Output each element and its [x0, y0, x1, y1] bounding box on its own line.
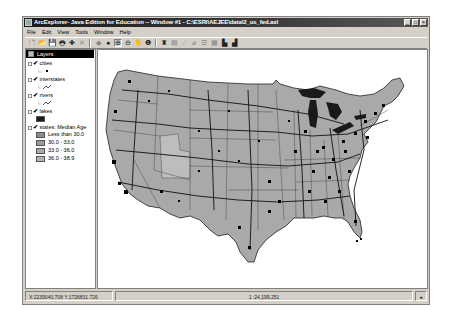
layers-icon [28, 51, 34, 57]
legend-swatch [36, 140, 45, 146]
menu-file[interactable]: File [27, 28, 36, 36]
menu-tools[interactable]: Tools [75, 28, 88, 36]
coordinates-display: X:2239040.708 Y:1726831.726 [25, 291, 113, 301]
menu-window[interactable]: Window [94, 28, 114, 36]
legend-label: 30.0 - 33.0 [48, 139, 74, 146]
legend-swatch [36, 148, 45, 154]
expand-toggle[interactable] [28, 126, 32, 130]
map-view[interactable] [97, 49, 428, 289]
maximize-button[interactable]: □ [412, 19, 419, 26]
menu-help[interactable]: Help [120, 28, 131, 36]
new-document-icon[interactable]: 🗋 [28, 39, 36, 47]
title-bar[interactable]: ArcExplorer- Java Edition for Education … [24, 18, 428, 27]
layers-header[interactable]: Layers [26, 50, 94, 58]
info-icon[interactable]: ❶ [144, 39, 152, 47]
minimize-button[interactable]: _ [404, 19, 411, 26]
measure-icon[interactable]: ⟋ [180, 39, 188, 47]
properties-icon[interactable]: ▟ [230, 39, 238, 47]
expand-toggle[interactable] [28, 110, 32, 114]
query-icon[interactable]: ▤ [170, 39, 178, 47]
zoom-in-icon[interactable]: ⊕ [114, 39, 122, 47]
lake-fill-swatch [36, 116, 45, 122]
line-symbol-icon [38, 100, 52, 106]
checkbox-icon[interactable]: ✔ [33, 92, 38, 99]
expand-toggle[interactable] [28, 94, 32, 98]
us-map[interactable] [98, 50, 428, 289]
line-symbol-icon [38, 84, 52, 90]
delete-icon[interactable]: ✕ [78, 39, 86, 47]
add-layer-icon[interactable]: ✚ [68, 39, 76, 47]
layers-title: Layers [37, 50, 54, 58]
menu-edit[interactable]: Edit [42, 28, 51, 36]
checkbox-icon[interactable]: ✔ [33, 60, 38, 67]
legend-swatch [36, 156, 45, 162]
layer-label: lakes [40, 108, 53, 114]
layer-label: rivers [40, 92, 53, 98]
checkbox-icon[interactable]: ✔ [33, 76, 38, 83]
layer-states[interactable]: ✔ states: Median Age [28, 124, 86, 131]
layer-label: cities [40, 60, 53, 66]
hand-icon[interactable]: ✋ [134, 39, 142, 47]
toolbar: 🗋 📂 💾 🖶 ✚ ✕ ◆ ● ⊕ ⊖ ✋ ❶ ♜ ▤ ⟋ ⌀ ☰ ▦ ▙ ▟ [25, 37, 427, 49]
open-folder-icon[interactable]: 📂 [38, 39, 46, 47]
legend-swatch [36, 132, 45, 138]
menu-bar: File Edit View Tools Window Help [25, 28, 131, 36]
expand-toggle[interactable] [28, 78, 32, 82]
eraser-icon[interactable]: ⌀ [190, 39, 198, 47]
window-controls: _ □ × [404, 19, 427, 26]
table-icon[interactable]: ☰ [200, 39, 208, 47]
layer-label: interstates [40, 76, 65, 82]
binoculars-icon[interactable]: ♜ [160, 39, 168, 47]
toolbar-separator [89, 39, 91, 47]
layer-interstates[interactable]: ✔ interstates [28, 76, 65, 83]
legend-label: 33.0 - 36.0 [48, 147, 74, 154]
expand-toggle[interactable] [28, 62, 32, 66]
point-symbol-icon [38, 68, 52, 74]
layer-panel: Layers ✔ cities ✔ interstates ✔ rivers ✔… [25, 49, 96, 289]
layer-cities[interactable]: ✔ cities [28, 60, 52, 67]
layer-lakes[interactable]: ✔ lakes [28, 108, 52, 115]
layer-rivers[interactable]: ✔ rivers [28, 92, 53, 99]
legend-label: Less than 30.0 [48, 131, 84, 138]
states-layer [106, 70, 404, 262]
menu-view[interactable]: View [57, 28, 69, 36]
globe-icon[interactable]: ● [415, 291, 427, 301]
globe-icon[interactable]: ● [104, 39, 112, 47]
status-bar: X:2239040.708 Y:1726831.726 1 :24,199,25… [25, 291, 427, 302]
back-icon[interactable]: ◆ [94, 39, 102, 47]
app-icon [25, 19, 32, 26]
map-tips-icon[interactable]: ▙ [220, 39, 228, 47]
save-icon[interactable]: 💾 [48, 39, 56, 47]
zoom-out-icon[interactable]: ⊖ [124, 39, 132, 47]
toolbar-separator [155, 39, 157, 47]
window-title: ArcExplorer- Java Edition for Education … [34, 18, 278, 27]
scale-display: 1 :24,199,251 [115, 291, 413, 301]
checkbox-icon[interactable]: ✔ [33, 124, 38, 131]
layer-label: states: Median Age [40, 124, 87, 130]
legend-label: 36.0 - 38.9 [48, 155, 74, 162]
close-button[interactable]: × [420, 19, 427, 26]
grid-icon[interactable]: ▦ [210, 39, 218, 47]
print-icon[interactable]: 🖶 [58, 39, 66, 47]
app-window: ArcExplorer- Java Edition for Education … [22, 16, 430, 305]
checkbox-icon[interactable]: ✔ [33, 108, 38, 115]
